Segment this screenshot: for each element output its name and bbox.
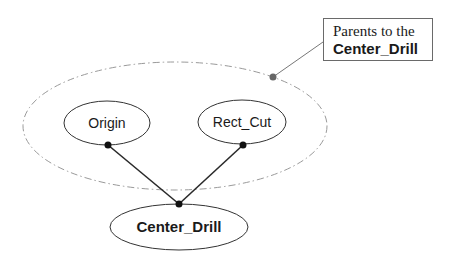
- callout-text-line2: Center_Drill: [333, 40, 432, 58]
- connector-dot-origin: [105, 142, 112, 149]
- node-origin[interactable]: Origin: [64, 101, 150, 145]
- node-origin-label: Origin: [88, 115, 125, 131]
- connector-dot-center-drill: [176, 201, 183, 208]
- callout-leader-line: [273, 42, 323, 77]
- node-center-drill-label: Center_Drill: [136, 218, 221, 235]
- node-rect-cut-label: Rect_Cut: [213, 114, 271, 130]
- edge-rect-cut-to-center-drill: [179, 145, 243, 204]
- callout-anchor-dot: [270, 74, 277, 81]
- edge-origin-to-center-drill: [108, 145, 179, 204]
- callout-box: Parents to the Center_Drill: [323, 18, 433, 61]
- node-rect-cut[interactable]: Rect_Cut: [198, 100, 286, 144]
- callout-text-line1: Parents to the: [333, 22, 432, 40]
- connector-dot-rect-cut: [240, 142, 247, 149]
- node-center-drill[interactable]: Center_Drill: [110, 204, 248, 250]
